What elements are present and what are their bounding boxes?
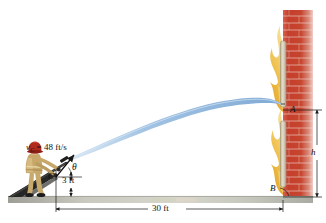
label-angle-theta: θ xyxy=(72,163,77,173)
label-point-b: B xyxy=(270,184,276,193)
label-point-c: C xyxy=(48,172,54,181)
window-lower xyxy=(281,121,287,187)
label-initial-velocity: vC = 48 ft/s xyxy=(26,143,67,154)
label-distance-30ft: 30 ft xyxy=(152,204,169,213)
burning-building-wall xyxy=(283,10,313,200)
label-point-a: A xyxy=(290,105,296,114)
ground-strip xyxy=(8,196,313,203)
label-height-h: h xyxy=(311,148,316,157)
window-upper xyxy=(281,41,287,107)
label-height-3ft: 3 ft xyxy=(62,176,74,185)
velocity-value: = 48 ft/s xyxy=(34,142,66,152)
water-stream-trajectory xyxy=(70,98,283,161)
projectile-figure xyxy=(0,0,326,223)
